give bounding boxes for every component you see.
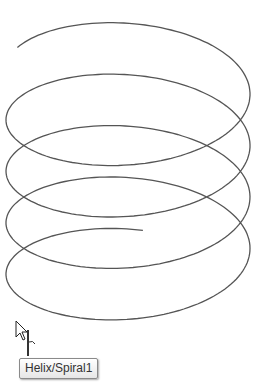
entity-tooltip: Helix/Spiral1 <box>19 358 98 379</box>
helix-spiral-curve[interactable] <box>6 23 250 320</box>
pointer-cursor-icon <box>15 320 39 356</box>
